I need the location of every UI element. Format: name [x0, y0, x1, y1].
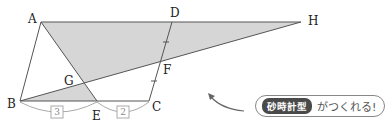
point-label-A: A [27, 12, 37, 26]
curved-arrow-icon [211, 97, 244, 111]
point-label-C: C [152, 100, 161, 114]
callout-text: がつくれる! [317, 98, 376, 114]
ratio-label-EC: 2 [120, 107, 126, 117]
point-label-B: B [7, 97, 16, 111]
point-label-D: D [170, 6, 180, 20]
hourglass-badge: 砂時計型 [262, 98, 312, 114]
arrowhead-icon [208, 93, 215, 100]
point-label-H: H [308, 14, 318, 28]
point-label-G: G [64, 74, 74, 88]
point-label-E: E [92, 109, 101, 123]
point-label-F: F [163, 63, 171, 77]
hourglass-callout: 砂時計型 がつくれる! [255, 95, 385, 117]
shaded-triangle-BGE [20, 83, 97, 101]
ratio-label-BE: 3 [54, 107, 60, 117]
